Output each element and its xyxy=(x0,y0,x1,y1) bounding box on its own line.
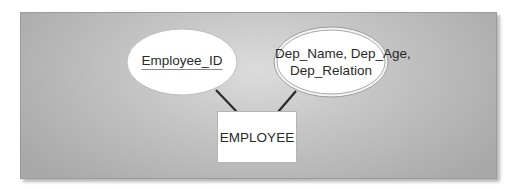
multivalued-attribute-line-1: Dep_Name, Dep_Age, xyxy=(275,45,387,62)
multivalued-attribute-label: Dep_Name, Dep_Age, Dep_Relation xyxy=(275,45,387,79)
multivalued-attribute-line-2: Dep_Relation xyxy=(275,62,387,79)
entity-label: EMPLOYEE xyxy=(220,130,294,145)
key-attribute-label: Employee_ID xyxy=(127,52,237,69)
entity-employee: EMPLOYEE xyxy=(217,111,297,163)
connector-dependent-attributes xyxy=(278,91,296,112)
connector-employee-id xyxy=(216,90,237,112)
employee-id-text: Employee_ID xyxy=(141,53,222,68)
